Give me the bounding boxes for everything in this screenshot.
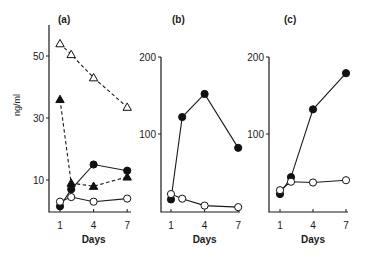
x-tick-label: 4 [202, 220, 208, 231]
panel-a-title: (a) [58, 14, 70, 25]
series-line [171, 94, 238, 199]
data-point-marker [201, 90, 208, 97]
x-tick-label: 7 [343, 220, 349, 231]
x-tick-label: 7 [235, 220, 241, 231]
data-point-marker [124, 195, 131, 202]
multi-panel-line-chart: (a) ng/ml Days 103050147 (b) Days 100200… [0, 0, 369, 258]
y-tick-label: 10 [33, 175, 45, 186]
data-point-marker [90, 198, 97, 205]
data-point-marker [67, 50, 75, 57]
axes [49, 25, 131, 212]
data-point-marker [235, 144, 242, 151]
panel-c: (c) Days 100200147 [247, 14, 349, 245]
x-tick-label: 7 [124, 220, 130, 231]
data-point-marker [90, 161, 97, 168]
data-point-marker [56, 39, 64, 46]
x-tick-label: 4 [310, 220, 316, 231]
data-point-marker [342, 70, 349, 77]
data-point-marker [56, 95, 64, 102]
x-axis-label-a: Days [82, 234, 106, 245]
series-filled-circles [167, 90, 241, 203]
y-tick-label: 100 [247, 129, 264, 140]
series-line [60, 99, 127, 186]
series-open-circles [56, 193, 130, 205]
panel-a: (a) ng/ml Days 103050147 [12, 14, 131, 245]
y-tick-label: 30 [33, 113, 45, 124]
series-open-triangles [56, 39, 132, 110]
panel-b: (b) Days 100200147 [139, 14, 241, 245]
data-point-marker [276, 187, 283, 194]
series-open-circles [167, 190, 241, 210]
panel-b-title: (b) [172, 14, 185, 25]
data-point-marker [309, 179, 316, 186]
data-point-marker [235, 204, 242, 211]
x-tick-label: 1 [57, 220, 63, 231]
data-point-marker [287, 178, 294, 185]
x-tick-label: 1 [277, 220, 283, 231]
series-filled-triangles [56, 95, 132, 189]
figure: (a) ng/ml Days 103050147 (b) Days 100200… [0, 0, 369, 258]
y-tick-label: 200 [247, 52, 264, 63]
x-axis-label-b: Days [193, 234, 217, 245]
x-tick-label: 4 [91, 220, 97, 231]
data-point-marker [309, 106, 316, 113]
data-point-marker [201, 202, 208, 209]
y-tick-label: 200 [139, 52, 156, 63]
x-tick-label: 1 [168, 220, 174, 231]
data-point-marker [179, 195, 186, 202]
data-point-marker [124, 167, 131, 174]
data-point-marker [68, 193, 75, 200]
data-point-marker [179, 113, 186, 120]
y-tick-label: 100 [139, 129, 156, 140]
data-point-marker [342, 177, 349, 184]
data-point-marker [56, 198, 63, 205]
data-point-marker [68, 186, 75, 193]
x-axis-label-c: Days [301, 234, 325, 245]
y-axis-label: ng/ml [12, 94, 22, 116]
data-point-marker [167, 190, 174, 197]
data-point-marker [67, 179, 75, 186]
data-point-marker [123, 103, 131, 110]
panel-c-title: (c) [284, 14, 296, 25]
series-open-circles [276, 177, 349, 194]
y-tick-label: 50 [33, 51, 45, 62]
